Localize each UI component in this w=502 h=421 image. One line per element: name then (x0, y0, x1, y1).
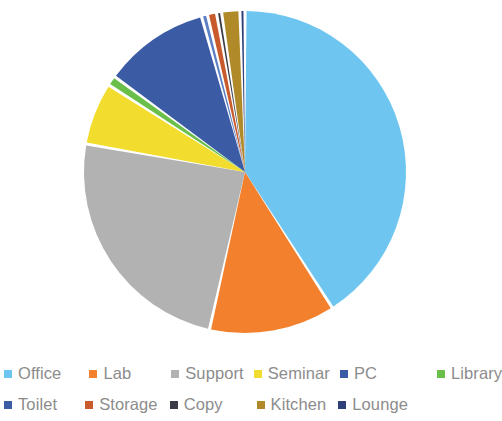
legend-item-lab[interactable]: Lab (89, 358, 131, 389)
legend-swatch-icon-library (437, 370, 445, 378)
legend-row-2: ToiletStorageCopyKitchenLounge (4, 389, 471, 420)
legend-item-kitchen[interactable]: Kitchen (257, 389, 327, 420)
pie-svg: Office: 40.5%Lab: 12.5%Support: 24%Semin… (0, 0, 475, 345)
legend-label-support: Support (185, 365, 244, 382)
legend-item-storage[interactable]: Storage (85, 389, 158, 420)
pie-plot-area: Office: 40.5%Lab: 12.5%Support: 24%Semin… (0, 0, 475, 345)
legend-label-kitchen: Kitchen (271, 396, 327, 413)
chart-legend: OfficeLabSupportSeminarPCLibraryToiletSt… (0, 358, 475, 420)
legend-label-library: Library (451, 365, 502, 382)
legend-item-copy[interactable]: Copy (170, 389, 223, 420)
legend-row-1: OfficeLabSupportSeminarPCLibrary (4, 358, 471, 389)
legend-item-lounge[interactable]: Lounge (338, 389, 408, 420)
legend-item-pc[interactable]: PC (340, 358, 377, 389)
legend-label-seminar: Seminar (268, 365, 330, 382)
legend-swatch-icon-lounge (338, 401, 346, 409)
pie-slice-group: Office: 40.5%Lab: 12.5%Support: 24%Semin… (84, 11, 406, 333)
legend-swatch-icon-kitchen (257, 401, 265, 409)
legend-swatch-icon-toilet (4, 401, 12, 409)
legend-swatch-icon-copy (170, 401, 178, 409)
legend-label-copy: Copy (184, 396, 223, 413)
legend-swatch-icon-pc (340, 370, 348, 378)
legend-swatch-icon-seminar (254, 370, 262, 378)
legend-swatch-icon-support (171, 370, 179, 378)
legend-label-lab: Lab (103, 365, 131, 382)
legend-label-toilet: Toilet (18, 396, 57, 413)
legend-label-office: Office (18, 365, 61, 382)
legend-item-support[interactable]: Support (171, 358, 244, 389)
legend-item-office[interactable]: Office (4, 358, 61, 389)
legend-item-toilet[interactable]: Toilet (4, 389, 57, 420)
legend-label-pc: PC (354, 365, 377, 382)
legend-item-seminar[interactable]: Seminar (254, 358, 330, 389)
legend-label-storage: Storage (99, 396, 158, 413)
legend-swatch-icon-storage (85, 401, 93, 409)
legend-swatch-icon-office (4, 370, 12, 378)
legend-item-library[interactable]: Library (437, 358, 502, 389)
legend-swatch-icon-lab (89, 370, 97, 378)
legend-label-lounge: Lounge (352, 396, 408, 413)
